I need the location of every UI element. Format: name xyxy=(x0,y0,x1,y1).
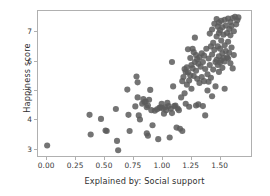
x-tick-label: 1.00 xyxy=(153,161,170,170)
data-point xyxy=(212,83,218,89)
data-point xyxy=(208,75,214,81)
data-point xyxy=(86,112,92,118)
data-point xyxy=(235,14,241,20)
y-tick-label: 3 xyxy=(27,144,32,153)
y-tick-mark xyxy=(34,90,37,91)
data-point xyxy=(149,122,155,128)
data-point xyxy=(176,107,182,113)
data-point xyxy=(231,28,237,34)
data-point xyxy=(230,65,236,71)
data-point xyxy=(186,78,192,84)
data-point xyxy=(132,103,138,109)
data-point xyxy=(169,59,175,65)
x-tick-mark xyxy=(191,157,192,160)
data-point xyxy=(137,116,143,122)
data-point xyxy=(113,106,119,112)
x-tick-mark xyxy=(133,157,134,160)
data-point xyxy=(146,97,152,103)
y-tick-label: 6 xyxy=(27,56,32,65)
x-tick-mark xyxy=(75,157,76,160)
data-point xyxy=(180,74,186,80)
x-tick-label: 0.25 xyxy=(67,161,84,170)
data-point xyxy=(167,134,173,140)
data-point xyxy=(127,128,133,134)
data-point xyxy=(231,52,237,58)
data-point xyxy=(227,60,233,66)
y-tick-mark xyxy=(34,61,37,62)
data-point xyxy=(135,94,141,100)
x-tick-mark xyxy=(162,157,163,160)
data-point xyxy=(169,110,175,116)
data-point xyxy=(202,66,208,72)
data-point xyxy=(222,86,228,92)
scatter-chart-figure: Explained by: Social support Happiness s… xyxy=(0,0,270,196)
data-point xyxy=(209,93,215,99)
x-tick-label: 0.00 xyxy=(38,161,55,170)
x-tick-label: 0.75 xyxy=(125,161,142,170)
x-tick-mark xyxy=(46,157,47,160)
data-point xyxy=(170,83,176,89)
y-tick-label: 5 xyxy=(27,85,32,94)
data-point xyxy=(209,27,215,33)
x-tick-label: 1.25 xyxy=(182,161,199,170)
data-point xyxy=(115,147,121,153)
x-axis-label: Explained by: Social support xyxy=(37,176,252,186)
data-point xyxy=(179,128,185,134)
data-point xyxy=(155,136,161,142)
data-point xyxy=(88,131,94,137)
x-tick-mark xyxy=(104,157,105,160)
y-tick-mark xyxy=(34,119,37,120)
y-tick-mark xyxy=(34,149,37,150)
data-point xyxy=(187,55,193,61)
data-point xyxy=(135,79,141,85)
data-point xyxy=(147,87,153,93)
data-point xyxy=(219,65,225,71)
data-points-layer xyxy=(38,11,251,156)
data-point xyxy=(104,128,110,134)
data-point xyxy=(44,143,50,149)
data-point xyxy=(188,86,194,92)
data-point xyxy=(210,67,216,73)
data-point xyxy=(193,68,199,74)
data-point xyxy=(133,73,139,79)
data-point xyxy=(145,133,151,139)
y-tick-label: 4 xyxy=(27,115,32,124)
data-point xyxy=(124,87,130,93)
x-tick-label: 0.50 xyxy=(96,161,113,170)
data-point xyxy=(200,103,206,109)
data-point xyxy=(228,44,234,50)
data-point xyxy=(225,39,231,45)
data-point xyxy=(182,90,188,96)
data-point xyxy=(204,87,210,93)
x-tick-label: 1.50 xyxy=(211,161,228,170)
data-point xyxy=(186,104,192,110)
y-tick-mark xyxy=(34,31,37,32)
data-point xyxy=(125,112,131,118)
data-point xyxy=(98,116,104,122)
data-point xyxy=(202,112,208,118)
data-point xyxy=(200,59,206,65)
data-point xyxy=(192,35,198,41)
plot-area xyxy=(37,10,252,157)
x-tick-mark xyxy=(220,157,221,160)
data-point xyxy=(114,138,120,144)
y-tick-label: 7 xyxy=(27,27,32,36)
